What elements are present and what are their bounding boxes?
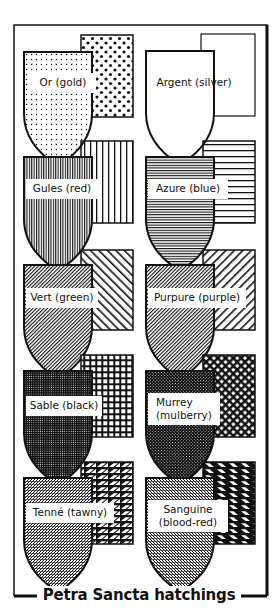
label-vert: Vert (green) [26,288,98,308]
label-murrey: Murrey (mulberry) [148,393,220,425]
label-or: Or (gold) [30,73,96,93]
label-sable: Sable (black) [26,396,102,416]
diagram-title: Petra Sancta hatchings [0,586,278,604]
label-azure: Azure (blue) [148,179,228,199]
label-argent: Argent (silver) [152,73,236,93]
label-sanguine: Sanguine (blood-red) [148,500,228,532]
label-gules: Gules (red) [26,179,98,199]
label-tenne: Tenné (tawny) [26,503,114,523]
label-purpure: Purpure (purple) [148,288,246,308]
tincture-tenne [24,462,133,592]
title-text: Petra Sancta hatchings [37,586,242,604]
